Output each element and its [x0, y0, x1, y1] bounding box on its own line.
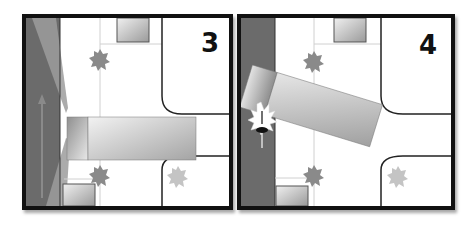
- tree-faded-icon: [387, 166, 408, 188]
- panel-4: 4: [237, 14, 455, 210]
- curb-corner-top: [381, 18, 451, 114]
- panel-number: 3: [201, 30, 219, 56]
- tree-icon: [89, 49, 110, 71]
- parked-car-bottom: [276, 186, 308, 206]
- truck-trailer: [264, 73, 382, 147]
- tree-icon: [303, 51, 324, 73]
- tree-faded-icon: [167, 166, 188, 188]
- tree-icon: [303, 165, 324, 187]
- panel-number: 4: [419, 32, 437, 58]
- intersection-scene-3: [26, 18, 229, 206]
- truck-trailer: [88, 117, 196, 160]
- truck-cab: [67, 117, 88, 160]
- panel-3: 3: [22, 14, 233, 210]
- parked-car-top: [334, 18, 366, 42]
- parked-car-bottom: [63, 184, 95, 206]
- parked-car-top: [117, 18, 149, 42]
